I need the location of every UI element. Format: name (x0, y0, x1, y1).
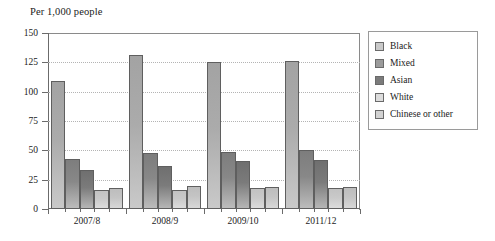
y-axis-tick-label: 50 (8, 145, 38, 155)
legend-item-label: Black (390, 42, 412, 52)
legend-item-label: White (390, 93, 413, 103)
chart-legend: BlackMixedAsianWhiteChinese or other (368, 31, 478, 130)
legend-swatch-icon (375, 110, 384, 119)
x-axis-category-label: 2011/12 (306, 216, 337, 226)
x-axis-minor-tick (314, 209, 315, 212)
x-axis-category-label: 2008/9 (152, 216, 178, 226)
bar (143, 153, 158, 209)
bar (80, 170, 95, 209)
x-axis-tick (282, 209, 283, 214)
y-axis-tick-label: 100 (8, 87, 38, 97)
x-axis-minor-tick (265, 209, 266, 212)
legend-item-label: Mixed (390, 59, 415, 69)
x-axis-category-label: 2009/10 (227, 216, 258, 226)
x-axis-minor-tick (143, 209, 144, 212)
bar (65, 159, 80, 209)
bar (299, 150, 314, 209)
bar (158, 166, 173, 209)
legend-swatch-icon (375, 76, 384, 85)
x-axis-minor-tick (172, 209, 173, 212)
bar (207, 62, 222, 209)
legend-item[interactable]: Chinese or other (375, 106, 470, 123)
x-axis-minor-tick (250, 209, 251, 212)
x-axis-tick (360, 209, 361, 214)
x-axis-minor-tick (328, 209, 329, 212)
bar (285, 61, 300, 209)
x-axis-minor-tick (187, 209, 188, 212)
x-axis-minor-tick (94, 209, 95, 212)
x-axis-minor-tick (109, 209, 110, 212)
x-axis-minor-tick (343, 209, 344, 212)
x-axis-minor-tick (299, 209, 300, 212)
legend-swatch-icon (375, 93, 384, 102)
legend-item[interactable]: White (375, 89, 470, 106)
bar (109, 188, 124, 209)
x-axis-tick (48, 209, 49, 214)
x-axis-minor-tick (158, 209, 159, 212)
x-axis-minor-tick (65, 209, 66, 212)
bar (129, 55, 144, 209)
x-axis-minor-tick (221, 209, 222, 212)
legend-item-label: Asian (390, 76, 412, 86)
bar (265, 187, 280, 209)
x-axis-minor-tick (236, 209, 237, 212)
legend-swatch-icon (375, 59, 384, 68)
y-axis-tick-label: 75 (8, 116, 38, 126)
bar (172, 190, 187, 209)
bar (343, 187, 358, 209)
legend-swatch-icon (375, 42, 384, 51)
bar-chart: Per 1,000 people 0255075100125150 2007/8… (0, 0, 495, 241)
bars-layer (48, 33, 360, 209)
x-axis-minor-tick (80, 209, 81, 212)
legend-item[interactable]: Asian (375, 72, 470, 89)
x-axis-category-label: 2007/8 (74, 216, 100, 226)
y-axis-tick-label: 0 (8, 204, 38, 214)
x-axis-tick (204, 209, 205, 214)
bar (51, 81, 66, 209)
bar (328, 188, 343, 209)
legend-item[interactable]: Black (375, 38, 470, 55)
chart-axis-title: Per 1,000 people (30, 6, 102, 17)
bar (314, 160, 329, 209)
bar (94, 190, 109, 209)
bar (221, 152, 236, 209)
y-axis-tick-label: 125 (8, 57, 38, 67)
legend-item-label: Chinese or other (390, 110, 453, 120)
bar (236, 161, 251, 209)
bar (187, 186, 202, 209)
y-axis-tick-label: 25 (8, 175, 38, 185)
bar (250, 188, 265, 209)
x-axis-tick (126, 209, 127, 214)
legend-item[interactable]: Mixed (375, 55, 470, 72)
y-axis-tick-label: 150 (8, 28, 38, 38)
